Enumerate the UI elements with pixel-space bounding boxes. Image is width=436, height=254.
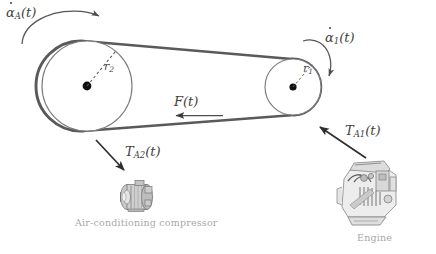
compressor-caption: Air-conditioning compressor	[75, 218, 218, 228]
alpha-1-argument: (t)	[339, 30, 354, 45]
alpha-1-symbol: α	[325, 30, 334, 45]
force-argument: (t)	[183, 94, 198, 109]
force-symbol: F	[174, 94, 183, 109]
torque-A2-symbol: T	[125, 144, 134, 159]
torque-A2-label: TA2(t)	[125, 145, 161, 160]
radius-1-subscript: 1	[308, 67, 313, 76]
radius-2-label: r2	[104, 61, 114, 74]
compressor-pulley	[42, 41, 132, 131]
compressor-icon	[121, 181, 153, 212]
engine-caption: Engine	[357, 233, 392, 243]
alpha-1-dot-accent	[329, 27, 331, 29]
torque-A1-label: TA1(t)	[345, 124, 381, 139]
torque-A2-subscript: A2	[134, 150, 146, 160]
engine-icon	[337, 161, 396, 225]
torque-A1-subscript: A1	[354, 129, 366, 139]
torque-A2-arrow	[96, 140, 124, 170]
torque-A2-argument: (t)	[145, 144, 160, 159]
alpha-A-argument: (t)	[21, 5, 36, 20]
torque-A1-argument: (t)	[365, 123, 380, 138]
alpha-1-label: α1(t)	[325, 31, 355, 46]
alpha-A-dot-accent	[10, 2, 12, 4]
radius-2-subscript: 2	[109, 65, 114, 74]
alpha-A-symbol: α	[6, 5, 15, 20]
figure-canvas: αA(t) α1(t) r2 r1 F(t) TA2(t) TA1(t) Air…	[0, 0, 436, 254]
radius-1-label: r1	[303, 63, 313, 76]
torque-A1-symbol: T	[345, 123, 354, 138]
alpha-A-label: αA(t)	[6, 6, 36, 21]
force-label: F(t)	[174, 95, 198, 108]
